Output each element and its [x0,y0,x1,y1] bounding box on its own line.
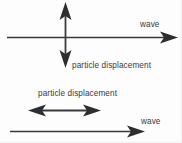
bottom-edge-shading [0,141,182,143]
transverse-particle-displacement-label: particle displacement [72,61,151,70]
longitudinal-particle-displacement-label: particle displacement [38,89,117,98]
longitudinal-wave-label: wave [141,117,161,126]
transverse-wave-label: wave [140,20,160,29]
wave-diagram-figure: wave particle displacement particle disp… [0,0,182,143]
right-edge-shading [180,0,182,143]
